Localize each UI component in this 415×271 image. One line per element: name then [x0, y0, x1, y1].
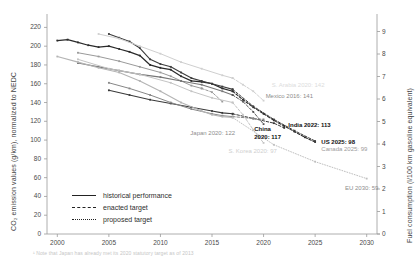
annotation-mexico-2016: Mexico 2016: 141 [266, 92, 313, 100]
annotation-canada-2025: Canada 2025: 99 [321, 145, 367, 153]
annotation-saudi-2020: S. Arabia 2020: 142 [272, 81, 325, 89]
footnote: ¹ Note that Japan has already met its 20… [33, 250, 194, 256]
series-layer [56, 33, 367, 179]
series-eu-historical [56, 56, 233, 119]
legend-label: proposed target [103, 216, 152, 223]
annotation-eu-2030: EU 2030: 59 [345, 184, 378, 192]
annotation-india-2022: India 2022: 113 [288, 121, 330, 129]
series-us-historical [56, 39, 233, 92]
legend-item-enacted[interactable]: enacted target [72, 201, 172, 213]
chart-container: CO₂ emission values (g/km), normalized t… [0, 0, 415, 271]
annotation-japan-2020: Japan 2020: 122 [190, 129, 235, 137]
chart-legend: historical performanceenacted targetprop… [72, 189, 172, 225]
annotation-korea-2020: S. Korea 2020: 97 [229, 147, 277, 155]
legend-swatch-solid-icon [72, 191, 96, 199]
legend-item-historical[interactable]: historical performance [72, 189, 172, 201]
legend-label: enacted target [103, 204, 148, 211]
series-mexico-historical [77, 52, 203, 89]
legend-item-proposed[interactable]: proposed target [72, 213, 172, 225]
series-japan-historical [108, 82, 234, 118]
annotation-china-2020: China2020: 117 [254, 125, 281, 141]
legend-label: historical performance [103, 192, 172, 199]
legend-swatch-dotted-icon [72, 215, 96, 223]
legend-swatch-dashed-icon [72, 203, 96, 211]
